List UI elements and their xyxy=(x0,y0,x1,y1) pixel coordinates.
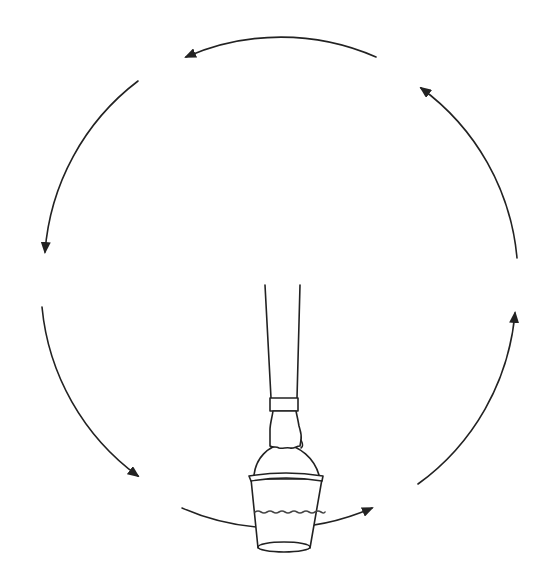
bucket xyxy=(249,473,325,552)
bucket-circular-motion-diagram xyxy=(0,0,550,580)
arrow-upper-left xyxy=(45,81,138,252)
arrow-top xyxy=(186,37,376,57)
bucket-bottom xyxy=(258,542,310,552)
diagram-canvas xyxy=(0,0,550,580)
arrow-lower-left xyxy=(42,307,138,476)
cuff xyxy=(270,398,298,411)
arrow-lower-right xyxy=(418,313,515,484)
arrow-upper-right xyxy=(421,88,517,258)
bucket-handle xyxy=(254,444,319,475)
hand xyxy=(270,411,303,448)
arm xyxy=(265,285,300,398)
